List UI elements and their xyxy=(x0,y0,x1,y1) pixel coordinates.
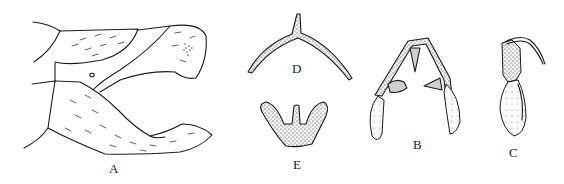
segment-outline-lower xyxy=(24,81,55,148)
b-left-tooth xyxy=(388,80,407,92)
b-right-tooth xyxy=(424,78,442,90)
trilobed-sclerite xyxy=(261,102,328,147)
panel-label-c: C xyxy=(509,146,518,159)
panel-label-e: E xyxy=(293,158,301,171)
b-left-lobe xyxy=(370,96,384,140)
upper-lobe xyxy=(55,29,138,64)
spiracle xyxy=(90,73,94,77)
b-median-tooth xyxy=(410,48,420,72)
segment-outline-upper xyxy=(33,22,60,62)
lower-lobe-fold xyxy=(150,136,165,138)
b-right-lobe xyxy=(444,84,460,134)
setae-patch xyxy=(183,43,192,55)
panel-b-drawing xyxy=(370,38,460,140)
panel-label-a: A xyxy=(109,162,118,175)
panel-a-drawing xyxy=(24,22,212,154)
panel-label-b: B xyxy=(413,138,422,151)
panel-label-d: D xyxy=(292,62,301,75)
panel-c-drawing xyxy=(500,37,545,136)
c-basal-sclerite xyxy=(502,40,521,82)
upper-process xyxy=(100,25,206,92)
lower-lobe xyxy=(48,81,212,154)
upper-process-inner xyxy=(93,26,170,90)
panel-e-drawing xyxy=(261,102,328,147)
figure-drawings xyxy=(0,0,564,184)
figure-plate: A D E B C xyxy=(0,0,564,184)
setae xyxy=(65,32,195,151)
